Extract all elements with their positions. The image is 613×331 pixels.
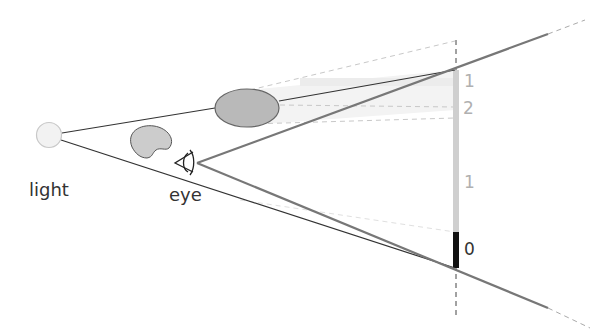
- scale-mark-2: 2: [463, 100, 474, 117]
- small-occluder: [131, 126, 172, 158]
- light-source-icon: [37, 123, 62, 148]
- light-label: light: [29, 181, 69, 199]
- eye-rays: [197, 34, 548, 308]
- shadow-bands: [250, 70, 455, 125]
- dashed-guides: [240, 20, 590, 328]
- scale-mark-top-1: 1: [464, 73, 475, 90]
- scale-mark-mid-1: 1: [464, 174, 475, 191]
- intensity-bar-light: [453, 70, 459, 232]
- large-occluder: [215, 89, 279, 127]
- intensity-bar-dark: [453, 232, 459, 268]
- eye-label: eye: [169, 186, 202, 204]
- eye-icon: [175, 150, 194, 175]
- scale-mark-0: 0: [464, 241, 475, 258]
- light-occlusion-diagram: [0, 0, 613, 331]
